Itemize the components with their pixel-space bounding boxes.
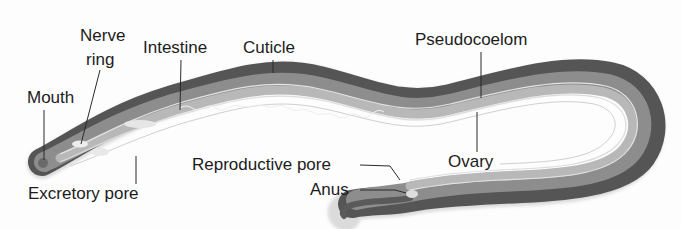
anus-bulge bbox=[406, 190, 418, 198]
reproductive-pore-leader bbox=[360, 165, 400, 180]
label-pseudocoelom: Pseudocoelom bbox=[415, 31, 527, 48]
label-excretory-pore: Excretory pore bbox=[28, 185, 139, 202]
pharynx-bulb-1 bbox=[72, 141, 88, 148]
label-anus: Anus bbox=[310, 181, 349, 198]
pharynx-bulb-2 bbox=[91, 148, 109, 156]
label-cuticle: Cuticle bbox=[243, 39, 295, 56]
nematode-diagram: Nerve ring Mouth Intestine Cuticle Pseud… bbox=[0, 0, 681, 229]
label-intestine: Intestine bbox=[143, 39, 207, 56]
label-nerve-ring-line1: Nerve bbox=[80, 27, 125, 44]
label-ovary: Ovary bbox=[448, 153, 493, 170]
label-mouth: Mouth bbox=[27, 89, 74, 106]
mouth-tip bbox=[38, 158, 48, 168]
label-reproductive-pore: Reproductive pore bbox=[192, 156, 331, 173]
label-nerve-ring-line2: ring bbox=[86, 51, 114, 68]
pharynx-bulb-3 bbox=[124, 120, 156, 128]
